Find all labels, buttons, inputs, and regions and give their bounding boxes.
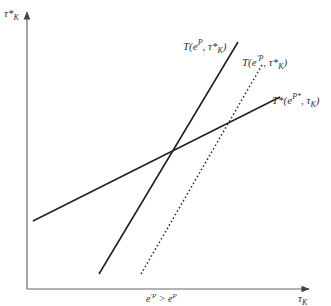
annotation-eprimeP-gt-eP: e′P > eP (146, 292, 177, 304)
curve-Tstar-ePstar (33, 97, 280, 221)
label-T-eP: T(eP, τ*K) (183, 38, 227, 55)
curve-T-eP (99, 42, 238, 274)
x-axis-label: τK (298, 292, 308, 306)
label-T-eprimeP: T(e′P, τ*K) (242, 54, 288, 71)
curve-T-eprimeP (141, 65, 262, 274)
label-Tstar-ePstar: T*(eP*, τK) (272, 92, 320, 109)
y-axis-label: τ*K (4, 7, 19, 22)
diagram-canvas: τ*K τK T(eP, τ*K) T(e′P, τ*K) T*(eP*, τK… (0, 0, 331, 306)
